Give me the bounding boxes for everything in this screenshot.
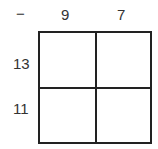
- answer-cell-r2c2[interactable]: [97, 89, 150, 142]
- answer-cell-r2c1[interactable]: [40, 89, 95, 142]
- row-header-1: 13: [13, 56, 30, 71]
- answer-grid: [38, 31, 152, 144]
- row-header-2: 11: [13, 101, 29, 116]
- operator-label: −: [16, 6, 25, 21]
- answer-cell-r1c1[interactable]: [40, 33, 95, 87]
- answer-cell-r1c2[interactable]: [97, 33, 150, 87]
- column-header-1: 9: [61, 7, 69, 22]
- column-header-2: 7: [117, 7, 125, 22]
